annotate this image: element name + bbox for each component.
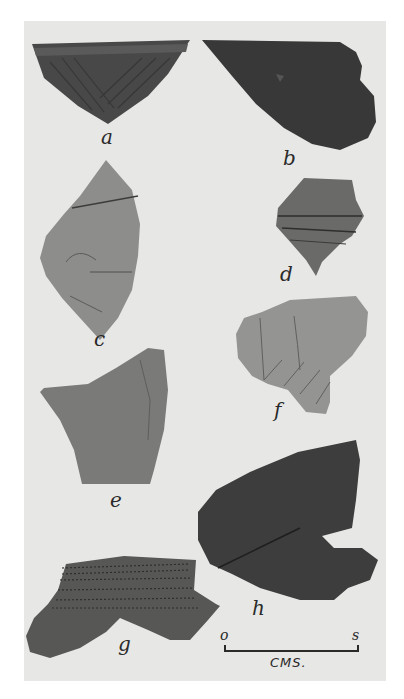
label-c: c: [94, 329, 105, 349]
label-g: g: [118, 634, 131, 654]
label-b: b: [283, 148, 296, 168]
scale-start-label: o: [220, 627, 228, 643]
label-e: e: [110, 490, 122, 510]
label-f: f: [274, 400, 281, 420]
label-a: a: [101, 127, 113, 147]
label-h: h: [252, 598, 265, 618]
label-d: d: [280, 264, 293, 284]
scale-end-label: s: [352, 627, 359, 643]
scale-unit-label: CMS.: [270, 655, 307, 670]
